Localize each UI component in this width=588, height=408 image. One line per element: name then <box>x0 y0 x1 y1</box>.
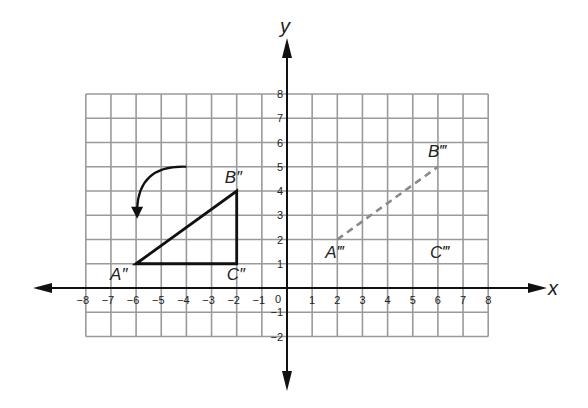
vertex-label: C″ <box>227 265 246 284</box>
axes: xy <box>33 15 559 391</box>
rotation-arrowhead-icon <box>131 207 143 219</box>
y-tick-label: −1 <box>270 306 283 318</box>
arrow-up-icon <box>282 38 292 58</box>
x-tick-label: −2 <box>227 294 240 306</box>
coordinate-plane-diagram: xy −8−7−6−5−4−3−2−11234567887654321−1−20… <box>0 0 588 408</box>
x-tick-label: 1 <box>309 294 315 306</box>
y-tick-label: −2 <box>270 331 283 343</box>
arrow-right-icon <box>528 283 547 293</box>
arrow-left-icon <box>33 283 52 293</box>
x-tick-label: 8 <box>485 294 491 306</box>
x-tick-label: −4 <box>177 294 190 306</box>
x-tick-label: −6 <box>127 294 140 306</box>
vertex-label: B″ <box>225 168 243 187</box>
x-tick-label: −1 <box>253 294 266 306</box>
y-tick-label: 6 <box>277 137 283 149</box>
x-tick-label: −8 <box>77 294 90 306</box>
y-tick-label: 3 <box>277 209 283 221</box>
x-tick-label: −7 <box>102 294 115 306</box>
rotation-arrow-icon <box>131 167 186 219</box>
y-tick-label: 7 <box>277 112 283 124</box>
arrow-down-icon <box>282 371 292 391</box>
y-tick-label: 8 <box>277 88 283 100</box>
x-tick-label: 6 <box>435 294 441 306</box>
vertex-label: A‴ <box>324 243 344 262</box>
origin-label: 0 <box>275 293 281 305</box>
y-tick-label: 1 <box>277 258 283 270</box>
y-tick-label: 5 <box>277 161 283 173</box>
x-axis-label: x <box>547 277 559 299</box>
x-tick-label: −5 <box>152 294 165 306</box>
x-tick-label: −3 <box>202 294 215 306</box>
y-tick-label: 4 <box>277 185 283 197</box>
vertex-label: A″ <box>109 265 128 284</box>
x-tick-label: 5 <box>410 294 416 306</box>
vertex-label: B‴ <box>428 142 447 161</box>
vertex-label: C‴ <box>430 243 450 262</box>
x-tick-label: 2 <box>334 294 340 306</box>
y-tick-label: 2 <box>277 234 283 246</box>
y-axis-label: y <box>278 15 291 37</box>
coordinate-plane: xy −8−7−6−5−4−3−2−11234567887654321−1−20… <box>0 0 588 408</box>
x-tick-label: 3 <box>359 294 365 306</box>
x-tick-label: 7 <box>460 294 466 306</box>
x-tick-label: 4 <box>385 294 391 306</box>
